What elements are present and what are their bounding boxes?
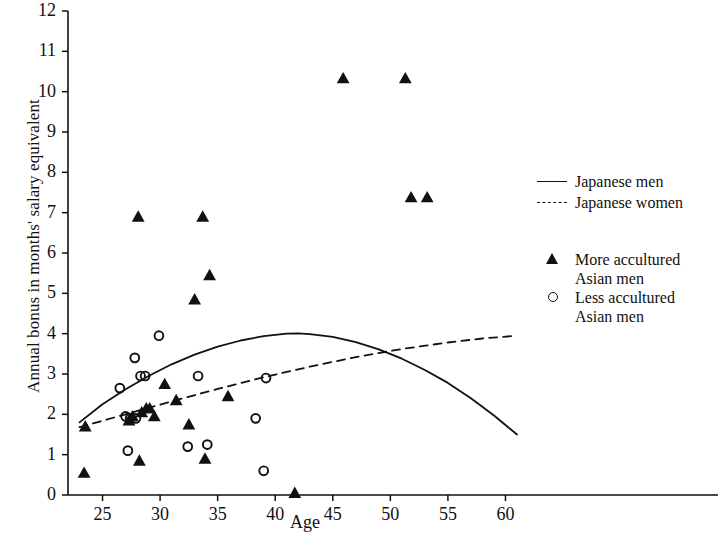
data-point-circle [259,466,268,475]
data-point-triangle [182,418,195,429]
series-line-japanese-men [80,333,518,434]
chart-root: Annual bonus in months' salary equivalen… [0,0,728,545]
data-point-circle [183,442,192,451]
data-point-circle [130,353,139,362]
data-point-triangle [399,72,412,83]
data-point-circle [203,440,212,449]
data-point-triangle [78,466,91,477]
x-tick-label: 50 [370,505,410,523]
x-tick-label: 35 [198,505,238,523]
legend-entry-japanese-men: Japanese men [575,172,725,193]
data-point-triangle [203,269,216,280]
data-point-circle [194,372,203,381]
y-tick-label: 5 [16,283,56,301]
y-tick-label: 9 [16,122,56,140]
dashed-line-key [537,193,571,212]
solid-line-key [537,172,571,191]
data-point-triangle [222,390,235,401]
y-tick-label: 6 [16,243,56,261]
legend-entry-less-accultured: Less accultured Asian men [575,288,725,326]
data-point-triangle [132,210,145,221]
triangle-marker-key [537,250,571,269]
data-point-circle [251,414,260,423]
x-tick-label: 45 [313,505,353,523]
legend-label-less-accultured: Less accultured [575,288,725,307]
legend-label-japanese-men: Japanese men [575,172,725,191]
x-tick-label: 60 [485,505,525,523]
y-tick-label: 0 [16,485,56,503]
data-point-circle [155,331,164,340]
x-tick-label: 40 [255,505,295,523]
data-point-circle [123,446,132,455]
data-point-triangle [196,210,209,221]
data-point-triangle [405,191,418,202]
data-point-triangle [188,293,201,304]
y-tick-label: 11 [16,41,56,59]
data-point-triangle [288,487,301,498]
y-tick-label: 2 [16,404,56,422]
y-tick-label: 1 [16,445,56,463]
circle-marker-key [537,288,571,307]
legend-spacer [575,214,725,250]
legend-label-more-accultured-line2: Asian men [575,269,725,288]
y-tick-label: 8 [16,162,56,180]
x-tick-label: 25 [83,505,123,523]
legend-entry-japanese-women: Japanese women [575,193,725,214]
y-tick-label: 3 [16,364,56,382]
x-tick-label: 30 [140,505,180,523]
data-point-triangle [421,191,434,202]
data-point-triangle [133,454,146,465]
y-tick-label: 4 [16,324,56,342]
y-tick-label: 10 [16,82,56,100]
legend-label-japanese-women: Japanese women [575,193,725,212]
legend-label-less-accultured-line2: Asian men [575,307,725,326]
y-tick-label: 7 [16,203,56,221]
data-point-circle [115,384,124,393]
legend: Japanese men Japanese women More accultu… [575,172,725,326]
y-tick-label: 12 [16,1,56,19]
data-point-triangle [199,452,212,463]
legend-label-more-accultured: More accultured [575,250,725,269]
data-point-triangle [158,378,171,389]
legend-entry-more-accultured: More accultured Asian men [575,250,725,288]
x-tick-label: 55 [428,505,468,523]
data-point-triangle [337,72,350,83]
